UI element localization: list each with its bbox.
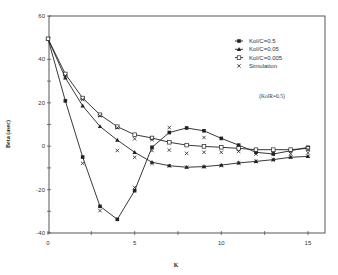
y-tick-label: -20 [36,187,45,193]
legend-marker [237,64,240,67]
simulation-point [220,151,223,154]
legend-marker [237,56,241,60]
x-tick-label: 5 [133,240,137,246]
data-point [64,99,68,103]
legend-label: Kol/C=0.005 [249,55,283,61]
data-point [202,129,206,133]
legend-item: Kol/C=0.005 [235,55,283,61]
data-point [185,143,189,147]
y-tick-label: 20 [38,100,45,106]
data-point [289,148,293,152]
simulation-point [98,209,101,212]
data-point [46,37,50,41]
data-point [254,148,258,152]
data-point [150,145,154,149]
simulation-point [116,149,119,152]
data-point [168,140,172,144]
legend-item: Kol/C=0.05 [235,46,280,52]
data-point [133,133,137,137]
legend-marker [237,39,241,43]
y-axis-title: Beta (asec) [5,120,12,148]
x-tick-label: 15 [305,240,312,246]
y-tick-label: 40 [38,56,45,62]
legend: Kol/C=0.5Kol/C=0.05Kol/C=0.005Simulation [235,38,283,69]
data-point [133,189,137,193]
data-point [220,145,224,149]
data-point [220,137,224,141]
x-tick-label: 10 [218,240,225,246]
x-axis-title: K [174,262,179,268]
y-tick-label: 60 [38,13,45,19]
simulation-point [81,162,84,165]
legend-label: Kol/C=0.5 [249,38,276,44]
simulation-point [133,137,136,140]
simulation-point [306,151,309,154]
simulation-point [202,136,205,139]
data-point [185,126,189,130]
simulation-point [202,151,205,154]
plot-border [49,16,325,233]
data-point [168,131,172,135]
data-point [271,148,275,152]
data-point [202,145,206,149]
annotation: (KolR=0.5) [259,93,285,100]
y-tick-label: 0 [42,143,46,149]
simulation-point [168,126,171,129]
data-point [81,155,85,159]
legend-label: Kol/C=0.05 [249,46,280,52]
legend-label: Simulation [249,63,277,69]
legend-item: Kol/C=0.5 [235,38,276,44]
data-point [132,150,136,154]
data-point [98,205,102,209]
y-tick-label: -40 [36,230,45,236]
simulation-point [185,152,188,155]
plot-frame [49,16,325,233]
simulation-point [133,156,136,159]
simulation-point [168,148,171,151]
x-tick-label: 0 [46,240,50,246]
legend-item: Simulation [237,63,277,69]
chart: 6040200-20-40 051015 K Beta (asec) Kol/C… [0,0,338,275]
data-point [116,218,120,222]
